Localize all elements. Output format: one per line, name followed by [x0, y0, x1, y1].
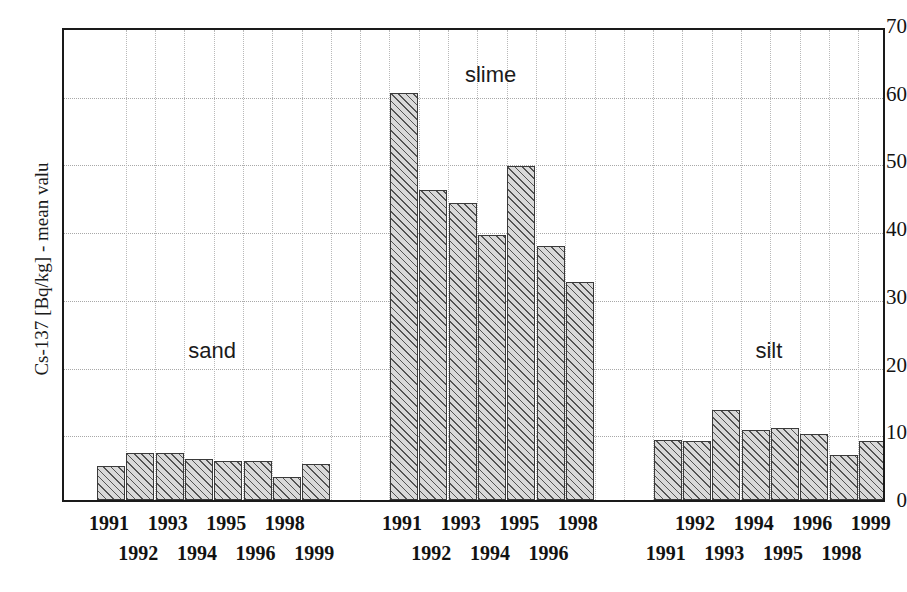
x-axis-year-label: 1993 — [704, 542, 744, 565]
x-axis-year-label: 1998 — [822, 542, 862, 565]
bar — [566, 282, 594, 500]
bar — [830, 455, 858, 500]
bar — [419, 190, 447, 500]
x-axis-year-label: 1992 — [675, 512, 715, 535]
gridline-vertical — [800, 30, 801, 500]
x-axis-year-label: 1998 — [558, 512, 598, 535]
bar — [712, 410, 740, 500]
bar — [156, 453, 184, 500]
bar — [859, 441, 885, 500]
gridline-vertical — [682, 30, 683, 500]
bar — [185, 459, 213, 500]
x-axis-year-label: 1992 — [118, 542, 158, 565]
x-axis-year-label: 1998 — [265, 512, 305, 535]
gridline-vertical — [272, 30, 273, 500]
bar — [537, 246, 565, 500]
bar — [126, 453, 154, 500]
plot-area — [62, 28, 885, 502]
x-axis-year-label: 1994 — [177, 542, 217, 565]
bar — [742, 430, 770, 500]
x-axis-year-label: 1994 — [470, 542, 510, 565]
gridline-horizontal — [64, 165, 883, 166]
x-axis-year-label: 1996 — [236, 542, 276, 565]
group-caption-sand: sand — [188, 338, 236, 364]
gridline-vertical — [595, 30, 596, 500]
gridline-vertical — [155, 30, 156, 500]
gridline-vertical — [331, 30, 332, 500]
group-caption-silt: silt — [755, 338, 782, 364]
gridline-vertical — [126, 30, 127, 500]
bar — [97, 466, 125, 500]
bar — [302, 464, 330, 500]
bar — [449, 203, 477, 500]
gridline-horizontal — [64, 98, 883, 99]
chart-container: Cs-137 [Bq/kg] - mean valu 0102030405060… — [0, 0, 907, 592]
x-axis-year-label: 1991 — [89, 512, 129, 535]
x-axis-year-label: 1992 — [411, 542, 451, 565]
gridline-vertical — [214, 30, 215, 500]
gridline-vertical — [858, 30, 859, 500]
x-axis-year-label: 1991 — [382, 512, 422, 535]
gridline-vertical — [302, 30, 303, 500]
gridline-vertical — [184, 30, 185, 500]
x-axis-year-label: 1999 — [294, 542, 334, 565]
gridline-vertical — [243, 30, 244, 500]
bar — [507, 166, 535, 500]
group-caption-slime: slime — [465, 62, 516, 88]
x-axis-year-label: 1995 — [763, 542, 803, 565]
gridline-vertical — [360, 30, 361, 500]
bar — [478, 235, 506, 500]
gridline-vertical — [624, 30, 625, 500]
bar — [654, 440, 682, 500]
x-axis-year-label: 1994 — [734, 512, 774, 535]
x-axis-year-label: 1993 — [441, 512, 481, 535]
bar — [244, 461, 272, 500]
bar — [214, 461, 242, 500]
bar — [800, 434, 828, 500]
bar — [390, 93, 418, 500]
gridline-vertical — [653, 30, 654, 500]
x-axis-year-label: 1991 — [646, 542, 686, 565]
y-axis-title: Cs-137 [Bq/kg] - mean valu — [31, 59, 53, 479]
gridline-vertical — [829, 30, 830, 500]
x-axis-year-label: 1999 — [851, 512, 891, 535]
x-axis-year-label: 1995 — [499, 512, 539, 535]
x-axis-year-label: 1996 — [529, 542, 569, 565]
bar — [273, 477, 301, 500]
x-axis-year-label: 1993 — [148, 512, 188, 535]
bar — [683, 441, 711, 500]
x-axis-year-label: 1995 — [206, 512, 246, 535]
x-axis-year-label: 1996 — [792, 512, 832, 535]
bar — [771, 428, 799, 500]
